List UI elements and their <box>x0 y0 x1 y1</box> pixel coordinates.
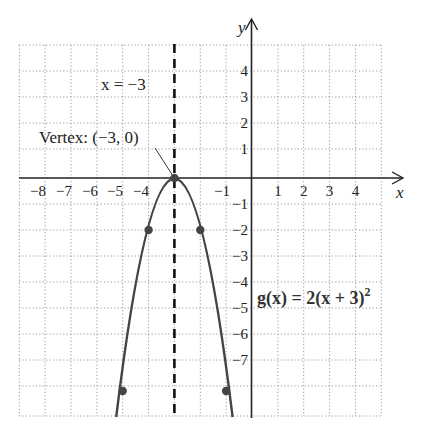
y-tick-label: −5 <box>232 300 248 316</box>
x-tick-label: −1 <box>214 183 230 199</box>
x-tick-label: 4 <box>352 183 360 199</box>
point-m5-m8 <box>119 387 127 395</box>
y-tick-label: −2 <box>232 222 248 238</box>
point-m1-m8 <box>222 387 230 395</box>
x-tick-label: 1 <box>274 183 282 199</box>
y-tick-label: −4 <box>232 274 248 290</box>
x-tick-label: −8 <box>30 183 46 199</box>
y-tick-label: 3 <box>241 89 249 105</box>
y-tick-label: −6 <box>232 326 248 342</box>
y-tick-labels: 4 3 2 1 −1 −2 −3 −4 −5 −6 −7 <box>232 63 248 368</box>
point-vertex <box>170 174 178 182</box>
y-axis-label: y <box>236 18 246 37</box>
x-tick-label: −5 <box>107 183 123 199</box>
y-tick-label: 4 <box>241 63 249 79</box>
y-tick-label: 1 <box>241 141 249 157</box>
function-label-main: g(x) = 2(x + 3) <box>257 288 365 309</box>
y-tick-label: 2 <box>241 115 249 131</box>
x-tick-label: −4 <box>133 183 149 199</box>
symmetry-label: x = −3 <box>101 75 146 94</box>
axes <box>19 19 403 418</box>
x-tick-label: −6 <box>82 183 98 199</box>
vertex-label: Vertex: (−3, 0) <box>39 128 139 147</box>
x-axis-label: x <box>395 183 404 202</box>
point-m2-m2 <box>196 226 204 234</box>
x-tick-label: −7 <box>56 183 72 199</box>
graph-canvas: −8 −7 −6 −5 −4 −1 1 2 3 4 4 3 2 1 −1 −2 … <box>0 0 430 442</box>
vertex-leader-line <box>155 148 173 176</box>
y-tick-label: −3 <box>232 248 248 264</box>
y-tick-label: −7 <box>232 352 248 368</box>
y-tick-label: −1 <box>232 196 248 212</box>
point-m4-m2 <box>144 226 152 234</box>
x-tick-label: 2 <box>300 183 308 199</box>
function-label: g(x) = 2(x + 3)2 <box>257 285 371 309</box>
function-label-exponent: 2 <box>365 285 371 299</box>
x-tick-label: 3 <box>326 183 334 199</box>
x-tick-labels: −8 −7 −6 −5 −4 −1 1 2 3 4 <box>30 183 360 199</box>
